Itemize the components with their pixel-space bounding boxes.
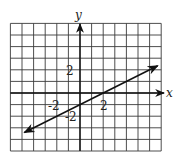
grid-lines [10, 23, 161, 151]
x-tick-label-2: 2 [100, 99, 108, 113]
y-axis-label: y [74, 8, 82, 22]
x-tick-label-neg2: -2 [48, 99, 60, 113]
y-tick-label-neg2: -2 [65, 110, 77, 124]
y-tick-label-2: 2 [66, 64, 74, 78]
coordinate-plane: y x 2 -2 2 -2 [0, 0, 182, 162]
x-axis-label: x [166, 86, 173, 100]
